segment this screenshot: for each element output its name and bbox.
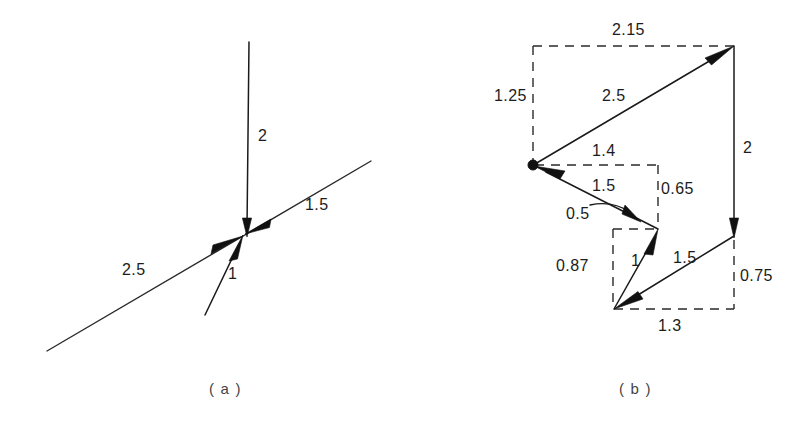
leader-arrowhead-0p5 bbox=[622, 205, 641, 222]
label-force-1: 1 bbox=[228, 266, 237, 282]
label-force-1b: 1 bbox=[631, 253, 640, 269]
vector-arrowhead-2 bbox=[729, 218, 738, 238]
force-line-2p5-1p5-axis bbox=[47, 161, 371, 351]
figure-canvas bbox=[0, 0, 810, 432]
label-component-0p75: 0.75 bbox=[740, 268, 773, 284]
label-force-2: 2 bbox=[258, 128, 267, 144]
label-force-1p5-lower: 1.5 bbox=[673, 250, 696, 266]
origin-node-dot bbox=[528, 160, 538, 170]
vector-arrowhead-1p5-upper bbox=[534, 166, 565, 179]
label-component-0p87: 0.87 bbox=[556, 258, 589, 274]
force-shaft-2 bbox=[247, 42, 249, 228]
label-component-2p15: 2.15 bbox=[612, 22, 645, 38]
label-component-1p4: 1.4 bbox=[592, 143, 615, 159]
vector-arrowhead-1 bbox=[644, 229, 658, 255]
label-force-1p5: 1.5 bbox=[305, 197, 328, 213]
vector-shaft-1p5-lower bbox=[625, 236, 734, 303]
caption-panel-b: ( b ) bbox=[619, 381, 652, 396]
vector-arrowhead-2p5 bbox=[705, 46, 734, 65]
label-component-1p25: 1.25 bbox=[494, 88, 527, 104]
label-component-0p5: 0.5 bbox=[566, 206, 589, 222]
label-component-1p3: 1.3 bbox=[658, 318, 681, 334]
label-force-2b: 2 bbox=[743, 140, 752, 156]
label-force-1p5-upper: 1.5 bbox=[592, 178, 615, 194]
label-resultant-2p5: 2.5 bbox=[602, 88, 625, 104]
caption-panel-a: ( a ) bbox=[209, 381, 242, 396]
vector-shaft-2p5 bbox=[535, 53, 723, 164]
force-arrowhead-2 bbox=[242, 218, 251, 237]
label-component-0p65: 0.65 bbox=[661, 181, 694, 197]
force-diagram-figure: 2 1.5 2.5 1 2.15 1.25 2.5 2 1.4 1.5 0.65… bbox=[0, 0, 810, 432]
label-force-2p5: 2.5 bbox=[122, 262, 145, 278]
